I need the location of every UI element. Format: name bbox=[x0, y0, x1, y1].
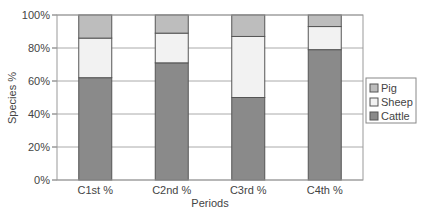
bar-segment-sheep bbox=[79, 38, 112, 78]
y-tick-label: 0% bbox=[34, 174, 50, 186]
bar-segment-sheep bbox=[308, 27, 341, 50]
legend-swatch-cattle bbox=[370, 112, 378, 120]
x-tick-label: C3rd % bbox=[230, 184, 267, 196]
bar-stack bbox=[155, 15, 188, 180]
y-tick-label: 60% bbox=[28, 75, 50, 87]
bar-segment-cattle bbox=[155, 63, 188, 180]
bar-segment-sheep bbox=[232, 36, 265, 97]
legend-label-cattle: Cattle bbox=[381, 110, 410, 122]
bar-stack bbox=[232, 15, 265, 180]
x-tick-label: C1st % bbox=[78, 184, 114, 196]
bar-segment-cattle bbox=[232, 98, 265, 181]
y-tick-label: 80% bbox=[28, 42, 50, 54]
bar-segment-sheep bbox=[155, 33, 188, 63]
bar-segment-pig bbox=[232, 15, 265, 36]
legend-swatch-pig bbox=[370, 84, 378, 92]
bar-stack bbox=[308, 15, 341, 180]
legend-label-pig: Pig bbox=[381, 82, 397, 94]
bars bbox=[79, 15, 342, 180]
bar-stack bbox=[79, 15, 112, 180]
bar-segment-pig bbox=[308, 15, 341, 27]
x-axis-title: Periods bbox=[191, 197, 229, 209]
legend: PigSheepCattle bbox=[366, 78, 416, 123]
y-tick-label: 100% bbox=[22, 9, 50, 21]
legend-swatch-sheep bbox=[370, 98, 378, 106]
y-tick-label: 20% bbox=[28, 141, 50, 153]
bar-segment-pig bbox=[155, 15, 188, 33]
y-tick-label: 40% bbox=[28, 108, 50, 120]
bar-segment-cattle bbox=[79, 78, 112, 180]
legend-label-sheep: Sheep bbox=[381, 96, 413, 108]
bar-segment-cattle bbox=[308, 50, 341, 180]
x-axis-ticks: C1st %C2nd %C3rd %C4th % bbox=[78, 184, 343, 196]
bar-segment-pig bbox=[79, 15, 112, 38]
y-axis-title: Species % bbox=[6, 72, 18, 124]
x-tick-label: C4th % bbox=[307, 184, 343, 196]
x-tick-label: C2nd % bbox=[152, 184, 191, 196]
stacked-bar-chart: 0%20%40%60%80%100% C1st %C2nd %C3rd %C4t… bbox=[0, 0, 427, 223]
y-axis-ticks: 0%20%40%60%80%100% bbox=[22, 9, 57, 186]
